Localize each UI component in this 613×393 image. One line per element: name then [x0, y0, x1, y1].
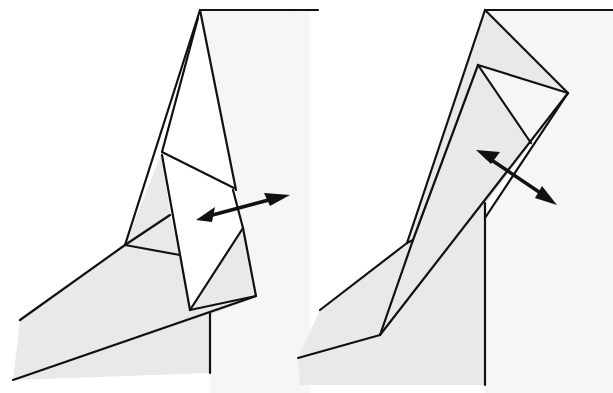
origami-diagram [0, 0, 613, 393]
paper-background-left [200, 10, 310, 393]
step-left [13, 10, 310, 393]
step-right [290, 10, 613, 393]
